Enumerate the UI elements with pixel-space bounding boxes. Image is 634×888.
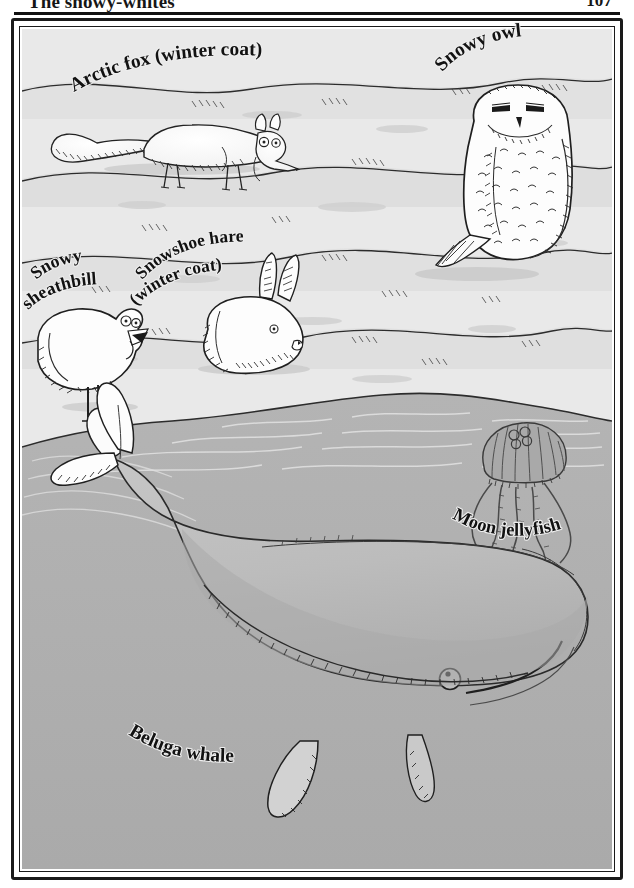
header-rule — [14, 12, 620, 15]
illustration-scene — [22, 29, 612, 869]
page-number: 107 — [586, 0, 612, 11]
book-page: The snowy-whites 107 — [0, 0, 634, 888]
